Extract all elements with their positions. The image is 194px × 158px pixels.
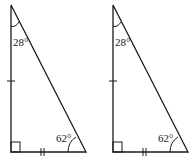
top-angle-arc bbox=[11, 22, 19, 27]
diagram-canvas: 28° 62° 28° 62° bbox=[0, 0, 194, 158]
triangle-left bbox=[7, 5, 86, 156]
triangle-left-outline bbox=[11, 5, 86, 152]
left-top-angle-label: 28° bbox=[13, 36, 28, 48]
triangle-right bbox=[109, 5, 188, 156]
top-angle-arc bbox=[113, 22, 121, 27]
right-bottom-angle-label: 62° bbox=[158, 132, 173, 144]
right-top-angle-label: 28° bbox=[115, 36, 130, 48]
left-bottom-angle-label: 62° bbox=[56, 132, 71, 144]
triangle-right-outline bbox=[113, 5, 188, 152]
right-angle-marker bbox=[11, 142, 20, 152]
right-angle-marker bbox=[113, 142, 122, 152]
